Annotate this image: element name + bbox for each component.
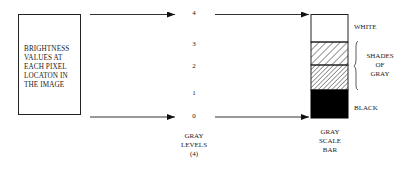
text-line: LOCATON IN [24, 72, 69, 81]
shades-brace [354, 41, 358, 90]
caption-line: GRAY [174, 132, 214, 141]
text-line: VALUES AT [24, 54, 69, 63]
brightness-values-box: BRIGHTNESS VALUES AT EACH PIXEL LOCATON … [18, 14, 81, 115]
bar-segment-white [311, 15, 348, 43]
shades-of-gray-label: SHADES OF GRAY [360, 52, 400, 79]
white-label: WHITE [354, 23, 377, 31]
caption-line: LEVELS [174, 141, 214, 150]
label-line: OF [360, 61, 400, 70]
bar-segment-dense-hatch [311, 65, 348, 90]
black-label: BLACK [354, 104, 378, 112]
text-line: BRIGHTNESS [24, 45, 69, 54]
gray-level-3: 3 [188, 40, 200, 48]
gray-level-1: 1 [188, 89, 200, 97]
gray-level-4: 4 [188, 9, 200, 17]
gray-level-2: 2 [188, 62, 200, 70]
caption-line: GRAY [310, 128, 350, 137]
gray-scale-bar-caption: GRAY SCALE BAR [310, 128, 350, 155]
gray-scale-bar [311, 15, 348, 119]
brightness-values-text: BRIGHTNESS VALUES AT EACH PIXEL LOCATON … [24, 45, 69, 90]
caption-line: SCALE [310, 137, 350, 146]
bar-segment-light-hatch [311, 42, 348, 65]
bar-segment-black [311, 90, 348, 118]
label-line: SHADES [360, 52, 400, 61]
gray-levels-caption: GRAY LEVELS (4) [174, 132, 214, 159]
label-line: GRAY [360, 70, 400, 79]
text-line: THE IMAGE [24, 81, 69, 90]
caption-line: (4) [174, 150, 214, 159]
gray-level-0: 0 [188, 112, 200, 120]
caption-line: BAR [310, 146, 350, 155]
text-line: EACH PIXEL [24, 63, 69, 72]
